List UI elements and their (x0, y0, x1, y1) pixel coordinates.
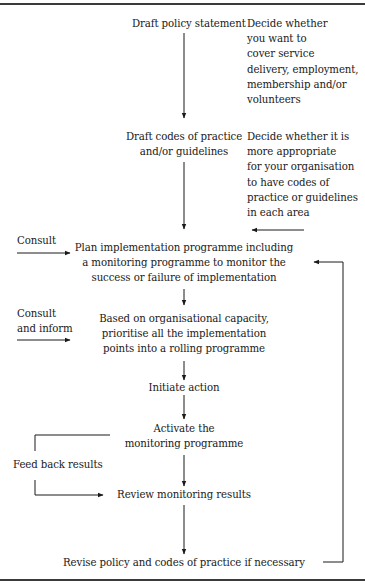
note-line: cover service (247, 46, 358, 61)
step-plan-line: Plan implementation programme including (70, 240, 298, 255)
note-policy-scope: Decide whether you want to cover service… (247, 16, 358, 107)
side-input-feedback: Feed back results (13, 457, 103, 472)
note-line: practice or guidelines (247, 190, 358, 205)
side-input-consult: Consult (17, 233, 56, 248)
note-line: more appropriate (247, 144, 358, 159)
note-line: volunteers (247, 92, 358, 107)
step-prioritise-line: Based on organisational capacity, (90, 311, 278, 326)
side-input-line: Consult (17, 306, 73, 321)
step-draft-codes-line: Draft codes of practice (120, 129, 248, 144)
note-line: you want to (247, 31, 358, 46)
note-line: for your organisation (247, 159, 358, 174)
note-line: membership and/or (247, 77, 358, 92)
step-plan-line: a monitoring programme to monitor the (70, 255, 298, 270)
step-draft-codes: Draft codes of practice and/or guideline… (120, 129, 248, 159)
note-line: Decide whether it is (247, 129, 358, 144)
note-line: to have codes of (247, 175, 358, 190)
side-input-consult-inform: Consult and inform (17, 306, 73, 336)
step-revise: Revise policy and codes of practice if n… (50, 555, 318, 570)
step-prioritise-line: points into a rolling programme (90, 341, 278, 356)
step-prioritise-line: prioritise all the implementation (90, 326, 278, 341)
step-activate: Activate the monitoring programme (110, 421, 258, 451)
step-review: Review monitoring results (100, 487, 268, 502)
note-line: Decide whether (247, 16, 358, 31)
step-draft-codes-line: and/or guidelines (120, 144, 248, 159)
step-plan-implementation: Plan implementation programme including … (70, 240, 298, 286)
step-prioritise: Based on organisational capacity, priori… (90, 311, 278, 357)
step-draft-policy: Draft policy statement (132, 16, 246, 31)
note-codes-choice: Decide whether it is more appropriate fo… (247, 129, 358, 220)
note-line: delivery, employment, (247, 62, 358, 77)
step-activate-line: monitoring programme (110, 436, 258, 451)
step-initiate: Initiate action (120, 380, 248, 395)
step-activate-line: Activate the (110, 421, 258, 436)
step-plan-line: success or failure of implementation (70, 270, 298, 285)
note-line: in each area (247, 205, 358, 220)
side-input-line: and inform (17, 321, 73, 336)
